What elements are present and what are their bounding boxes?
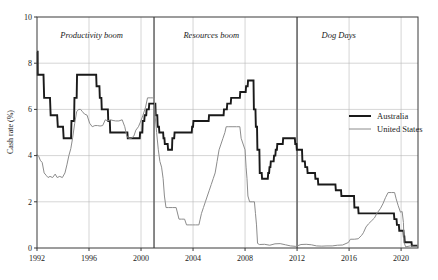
y-tick-label-0: 0 xyxy=(28,244,32,253)
y-axis-title: Cash rate (%) xyxy=(6,110,15,154)
y-tick-label-6: 6 xyxy=(28,105,32,114)
x-tick-label-1992: 1992 xyxy=(29,254,45,263)
x-tick-label-2000: 2000 xyxy=(133,254,149,263)
y-tick-label-4: 4 xyxy=(28,151,32,160)
era-label-productivity-boom: Productivity boom xyxy=(59,30,123,40)
era-label-dog-days: Dog Days xyxy=(321,30,357,40)
y-tick-label-8: 8 xyxy=(28,59,32,68)
legend-label-australia: Australia xyxy=(377,111,408,121)
chart-canvas: 0246810 19921996200020042008201220162020… xyxy=(0,0,438,280)
x-tick-label-2016: 2016 xyxy=(341,254,357,263)
legend-label-united-states: United States xyxy=(377,124,423,134)
x-tick-label-1996: 1996 xyxy=(81,254,97,263)
x-tick-label-2020: 2020 xyxy=(393,254,409,263)
x-tick-label-2008: 2008 xyxy=(237,254,253,263)
cash-rate-chart: 0246810 19921996200020042008201220162020… xyxy=(0,0,438,280)
chart-background xyxy=(0,0,438,280)
y-tick-label-2: 2 xyxy=(28,198,32,207)
y-tick-label-10: 10 xyxy=(24,13,32,22)
era-label-resources-boom: Resources boom xyxy=(182,30,239,40)
x-tick-label-2012: 2012 xyxy=(289,254,305,263)
x-tick-label-2004: 2004 xyxy=(185,254,201,263)
